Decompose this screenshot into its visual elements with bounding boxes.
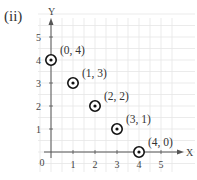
data-point: (4, 0) — [134, 136, 173, 157]
data-point: (2, 2) — [90, 90, 129, 111]
tick-labels: 12345123450 — [36, 32, 164, 171]
y-tick-label: 5 — [36, 32, 41, 43]
x-tick-label: 3 — [115, 159, 120, 170]
y-axis-label: Y — [48, 6, 55, 17]
x-tick-label: 1 — [71, 159, 76, 170]
y-axis-arrow-icon — [49, 18, 54, 25]
scatter-chart: XY 12345123450 (0, 4)(1, 3)(2, 2)(3, 1)(… — [0, 0, 197, 180]
point-label: (3, 1) — [126, 113, 151, 126]
x-tick-label: 4 — [137, 159, 142, 170]
x-tick-label: 2 — [93, 159, 98, 170]
x-axis-label: X — [186, 147, 194, 158]
y-tick-label: 4 — [36, 55, 41, 66]
y-tick-label: 3 — [36, 78, 41, 89]
data-point: (3, 1) — [112, 113, 151, 134]
origin-label: 0 — [40, 157, 45, 168]
point-label: (0, 4) — [60, 44, 85, 57]
point-label: (4, 0) — [148, 136, 173, 149]
x-axis-arrow-icon — [177, 150, 184, 155]
x-tick-label: 5 — [159, 159, 164, 170]
y-tick-label: 2 — [36, 101, 41, 112]
data-point: (1, 3) — [68, 67, 107, 88]
y-tick-label: 1 — [36, 124, 41, 135]
point-label: (2, 2) — [104, 90, 129, 103]
point-label: (1, 3) — [82, 67, 107, 80]
data-point: (0, 4) — [46, 44, 85, 65]
